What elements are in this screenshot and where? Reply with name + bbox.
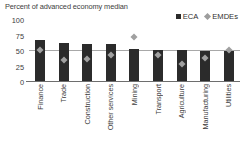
- x-axis-category-labels: FinanceTradeConstructionOther servicesMi…: [29, 84, 240, 146]
- y-tick-label-100: 100: [12, 16, 24, 25]
- x-axis-label: Construction: [83, 84, 92, 124]
- bar[interactable]: [129, 49, 139, 82]
- diamond-marker-icon[interactable]: [131, 34, 138, 41]
- x-axis-line: [29, 81, 240, 82]
- square-marker-icon: [176, 14, 181, 19]
- bar-series-group: [29, 20, 240, 82]
- bar-group[interactable]: [147, 20, 169, 82]
- bar-group[interactable]: [171, 20, 193, 82]
- y-tick-label-0: 0: [20, 78, 24, 87]
- bar-group[interactable]: [218, 20, 240, 82]
- x-axis-label: Manufacturing: [201, 84, 210, 130]
- bar[interactable]: [224, 51, 234, 82]
- x-label-cell: Agriculture: [171, 84, 193, 146]
- bar-group[interactable]: [53, 20, 75, 82]
- x-axis-label: Transport: [154, 84, 163, 115]
- x-axis-label: Other services: [106, 84, 115, 130]
- bar-group[interactable]: [29, 20, 51, 82]
- y-tick-label-75: 75: [16, 31, 24, 40]
- bar-group[interactable]: [123, 20, 145, 82]
- x-label-cell: Other services: [100, 84, 122, 146]
- bar[interactable]: [82, 44, 92, 82]
- x-label-cell: Transport: [147, 84, 169, 146]
- plot-area: [29, 20, 240, 82]
- x-label-cell: Manufacturing: [194, 84, 216, 146]
- bar[interactable]: [106, 44, 116, 82]
- y-tick-label-25: 25: [16, 62, 24, 71]
- x-label-cell: Mining: [123, 84, 145, 146]
- x-label-cell: Trade: [53, 84, 75, 146]
- bar-group[interactable]: [194, 20, 216, 82]
- y-axis-zero-tick: [26, 81, 29, 82]
- x-label-cell: Utilities: [218, 84, 240, 146]
- y-axis: 0255075100: [0, 0, 27, 148]
- x-label-cell: Construction: [76, 84, 98, 146]
- x-label-cell: Finance: [29, 84, 51, 146]
- bar-group[interactable]: [76, 20, 98, 82]
- y-tick-label-50: 50: [16, 47, 24, 56]
- x-axis-label: Finance: [36, 84, 45, 110]
- bar-group[interactable]: [100, 20, 122, 82]
- diamond-marker-icon: [204, 13, 211, 20]
- chart-container: Percent of advanced economy median ECA E…: [0, 0, 244, 148]
- x-axis-label: Mining: [130, 84, 139, 105]
- x-axis-label: Trade: [59, 84, 68, 103]
- x-axis-label: Utilities: [224, 84, 233, 107]
- x-axis-label: Agriculture: [177, 84, 186, 118]
